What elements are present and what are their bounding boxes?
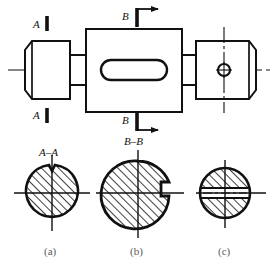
- section-b-title: B–B: [124, 136, 143, 147]
- section-marker-b-top-label: B: [122, 11, 129, 22]
- main-view-group: [8, 8, 271, 131]
- section-b-view: [96, 150, 184, 238]
- left-step-collar: [70, 55, 86, 85]
- section-marker-b-top: [136, 8, 158, 27]
- section-marker-a-top-label: A: [33, 19, 40, 30]
- section-marker-b-bottom: [136, 112, 158, 131]
- left-end-body: [25, 41, 70, 99]
- section-a-view: [14, 155, 90, 231]
- section-c-view: [196, 160, 266, 230]
- figure-caption-c: (c): [218, 246, 230, 257]
- section-a-title: A–A: [39, 147, 58, 158]
- section-marker-a-bottom-label: A: [33, 110, 40, 121]
- technical-drawing-page: A A B B A–A B–B (a) (b) (c): [0, 0, 277, 274]
- figure-caption-a: (a): [44, 246, 56, 257]
- figure-caption-b: (b): [130, 246, 143, 257]
- right-step-collar: [182, 55, 196, 85]
- right-through-hole: [216, 27, 232, 113]
- section-marker-b-bottom-label: B: [122, 115, 129, 126]
- center-stadium-slot: [101, 60, 167, 80]
